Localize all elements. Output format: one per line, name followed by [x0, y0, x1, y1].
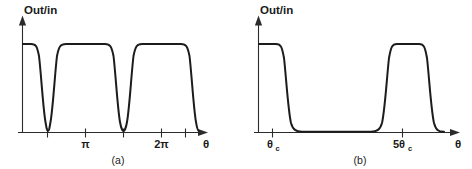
tick-label-b-theta-sub: c: [276, 144, 280, 153]
x-axis-label-a: θ: [203, 138, 209, 150]
tick-label-b-5theta-sub: c: [408, 144, 412, 153]
tick-label-a-2pi: 2π: [154, 138, 169, 150]
caption-a: (a): [112, 154, 125, 166]
y-axis-label-a: Out/in: [24, 4, 57, 16]
tick-label-b-5theta: 5θ: [393, 138, 405, 150]
curve-b: [259, 44, 444, 132]
tick-label-a-pi: π: [81, 138, 90, 150]
x-axis-arrowhead-a: [198, 129, 208, 136]
figure-container: Out/in π 2π θ (a) Out/in θ c: [0, 0, 472, 169]
x-axis-label-b: θ: [455, 138, 461, 150]
y-axis-label-b: Out/in: [260, 4, 293, 16]
caption-b: (b): [354, 154, 367, 166]
panel-a-plot: Out/in π 2π θ (a): [0, 0, 236, 169]
x-axis-arrowhead-b: [450, 129, 460, 136]
curve-a: [23, 44, 199, 131]
panel-a: Out/in π 2π θ (a): [0, 0, 236, 169]
y-axis-arrowhead-b: [255, 16, 262, 26]
tick-label-b-theta: θ: [267, 138, 273, 150]
y-axis-arrowhead-a: [19, 16, 26, 26]
panel-b-plot: Out/in θ c 5θ c θ (b): [236, 0, 472, 169]
panel-b: Out/in θ c 5θ c θ (b): [236, 0, 472, 169]
